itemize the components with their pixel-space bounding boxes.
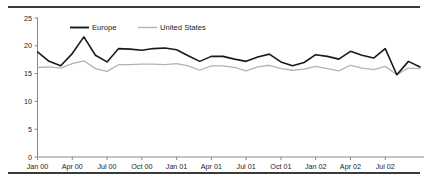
y-axis: 0510152025 xyxy=(24,14,38,162)
y-tick-label: 20 xyxy=(24,41,32,50)
line-chart-plot: 0510152025 Jan 00Apr 00Jul 00Oct 00Jan 0… xyxy=(0,0,428,186)
x-tick-label: Jul 01 xyxy=(237,162,256,171)
chart-legend: EuropeUnited States xyxy=(70,23,206,32)
x-tick-label: Apr 02 xyxy=(340,162,361,171)
legend-label: Europe xyxy=(92,23,117,32)
y-tick-label: 0 xyxy=(28,153,32,162)
x-tick-label: Apr 01 xyxy=(201,162,222,171)
legend-label: United States xyxy=(160,23,206,32)
y-tick-label: 10 xyxy=(24,97,32,106)
series-lines xyxy=(38,37,421,75)
series-line-united-states xyxy=(38,61,421,75)
chart-figure: 0510152025 Jan 00Apr 00Jul 00Oct 00Jan 0… xyxy=(0,0,428,186)
x-axis: Jan 00Apr 00Jul 00Oct 00Jan 01Apr 01Jul … xyxy=(27,157,424,171)
x-tick-label: Jan 01 xyxy=(166,162,188,171)
x-tick-label: Jul 02 xyxy=(376,162,395,171)
y-tick-label: 15 xyxy=(24,69,32,78)
x-tick-label: Oct 00 xyxy=(131,162,152,171)
x-tick-label: Oct 01 xyxy=(270,162,291,171)
series-line-europe xyxy=(38,37,421,75)
x-tick-label: Jul 00 xyxy=(97,162,116,171)
y-tick-label: 25 xyxy=(24,14,32,23)
x-tick-label: Jan 00 xyxy=(27,162,49,171)
x-tick-label: Jan 02 xyxy=(305,162,327,171)
y-tick-label: 5 xyxy=(28,125,32,134)
x-tick-label: Apr 00 xyxy=(62,162,83,171)
